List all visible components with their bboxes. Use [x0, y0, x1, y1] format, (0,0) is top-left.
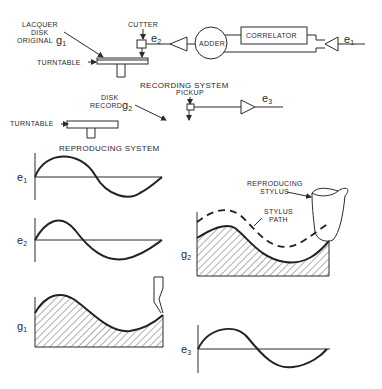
- amplifier-recording-icon: [170, 37, 187, 51]
- amplifier-input-icon: [325, 37, 338, 51]
- lacquer-label-line2: DISK: [31, 29, 49, 36]
- g1-axis-label: g1: [17, 320, 27, 333]
- turntable-label-recording: TURNTABLE: [37, 59, 81, 66]
- turntable-spindle-reproducing: [87, 128, 95, 138]
- waveform-g2-groove: REPRODUCING STYLUS STYLUS PATH g2: [181, 180, 348, 276]
- disk-label-line2: RECORD: [90, 102, 122, 109]
- disk-symbol: g2: [122, 99, 132, 112]
- adder-label: ADDER: [199, 40, 225, 47]
- recording-reproducing-diagram: LACQUER DISK ORIGINAL g1 TURNTABLE CUTTE…: [0, 0, 382, 389]
- waveform-e2: e2: [17, 218, 162, 262]
- amplifier-output-icon: [241, 100, 255, 114]
- pickup-head: [187, 104, 194, 110]
- recording-system: LACQUER DISK ORIGINAL g1 TURNTABLE CUTTE…: [17, 21, 365, 90]
- e1-axis-label: e1: [17, 171, 27, 184]
- signal-e2-label: e2: [151, 32, 161, 45]
- cutter-stylus-icon: [154, 277, 163, 313]
- e2-axis-label: e2: [17, 234, 27, 247]
- e3-axis-label: e3: [181, 343, 191, 356]
- reproducing-stylus-icon: [312, 188, 348, 241]
- turntable-spindle-recording: [117, 64, 125, 77]
- waveform-g1-groove: g1: [17, 277, 163, 347]
- reproducing-system-title: REPRODUCING SYSTEM: [59, 144, 160, 153]
- turntable-label-reproducing: TURNTABLE: [10, 120, 54, 127]
- correlator-label: CORRELATOR: [246, 32, 297, 39]
- waveform-e1: e1: [17, 153, 162, 200]
- turntable-platter-recording: [97, 58, 148, 64]
- disk-label-line1: DISK: [101, 94, 119, 101]
- cutter-head: [137, 40, 146, 48]
- cutter-label: CUTTER: [128, 21, 158, 28]
- signal-e3-label: e3: [262, 92, 272, 105]
- reproducing-stylus-label-line2: STYLUS: [260, 188, 289, 195]
- lacquer-symbol: g1: [56, 34, 66, 47]
- g2-axis-label: g2: [181, 248, 191, 261]
- stylus-path-label-line1: STYLUS: [264, 208, 293, 215]
- turntable-platter-reproducing: [67, 121, 118, 128]
- lacquer-pointer-arrow: [64, 32, 103, 57]
- stylus-path-label-line2: PATH: [269, 216, 288, 223]
- waveform-e3: e3: [181, 325, 330, 373]
- lacquer-label-line1: LACQUER: [22, 21, 58, 29]
- reproducing-stylus-label-line1: REPRODUCING: [247, 180, 303, 187]
- pickup-label: PICKUP: [176, 89, 204, 96]
- lacquer-label-line3: ORIGINAL: [17, 37, 53, 44]
- reproducing-system: DISK RECORD g2 PICKUP e3 TURNTABLE REPRO…: [10, 89, 283, 153]
- signal-e1-label: e1: [344, 33, 354, 46]
